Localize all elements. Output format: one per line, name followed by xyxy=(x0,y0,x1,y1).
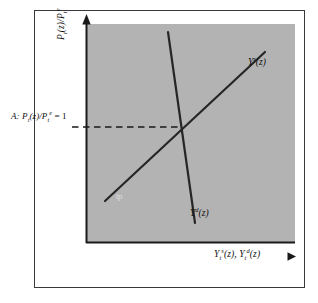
watermark-smudge: tp xyxy=(116,191,122,201)
demand-curve-label: Yd(z) xyxy=(190,209,209,219)
y-axis-label-text: Pt(z)/Pte xyxy=(56,8,66,40)
plot-graphics xyxy=(0,0,318,303)
supply-curve-label: Ys(z) xyxy=(248,58,266,68)
x-axis-label-text: Yts(z), Ytd(z) xyxy=(214,249,260,259)
equilibrium-label-a: A: Pt(z)/Pte = 1 xyxy=(11,112,67,121)
supply-curve-label-text: Ys(z) xyxy=(248,57,266,67)
x-axis-arrow-icon xyxy=(288,252,297,261)
figure-root: Pt(z)/Pte Yts(z), Ytd(z) A: Pt(z)/Pte = … xyxy=(0,0,318,303)
demand-curve-label-text: Yd(z) xyxy=(190,208,209,218)
equilibrium-label-text: A: Pt(z)/Pte = 1 xyxy=(11,111,67,121)
y-axis-arrow-icon xyxy=(82,14,90,25)
x-axis-label: Yts(z), Ytd(z) xyxy=(214,250,260,260)
y-axis-label: Pt(z)/Pte xyxy=(57,8,67,40)
